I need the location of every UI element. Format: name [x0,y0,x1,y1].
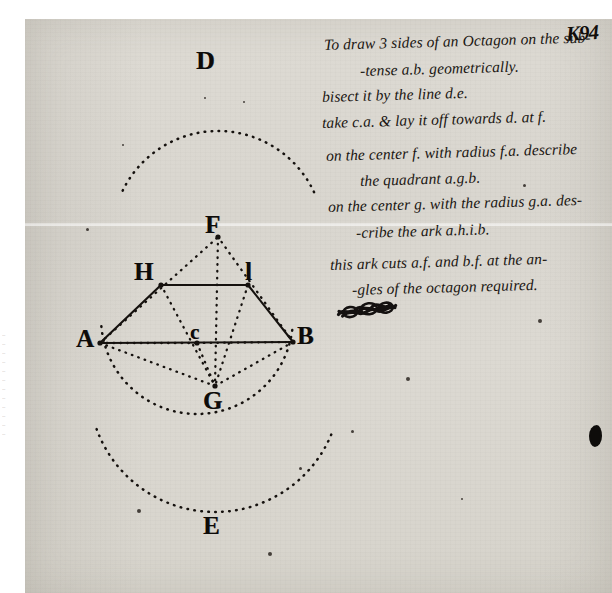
bleed-line: ... [2,429,16,438]
bleed-line: ... [2,411,16,420]
construction-c-g [197,343,215,386]
diagram-label-d: D [196,46,215,76]
ink-speck [137,509,141,513]
bleed-line: ... [2,375,16,384]
ark-a-h-i-b [97,429,334,512]
vertex-dot-a [97,340,102,345]
ink-speck [538,319,542,323]
verso-bleed-through: .................................... [2,330,16,585]
bleed-line: ... [2,357,16,366]
bleed-line: ... [2,402,16,411]
radius-g-h [161,285,215,386]
ink-speck [523,184,526,187]
radius-g-i [215,285,248,386]
vertex-dot-b [290,339,295,344]
ink-speck [122,144,124,146]
diagram-label-i: l [245,258,252,286]
diagram-label-c: c [190,320,199,345]
diagram-label-f: F [205,211,220,239]
diagram-label-b: B [297,322,314,350]
ink-speck [351,430,354,433]
octagon-side-a-h [100,285,161,343]
bleed-line: ... [2,330,16,339]
diagram-label-g: G [203,387,222,415]
vertex-dot-h [158,282,163,287]
ink-speck [268,552,272,556]
diagram-label-h: H [134,258,153,286]
ink-speck [243,101,245,103]
axis-d-e-segment [215,237,218,386]
diagram-label-e: E [203,512,220,540]
construction-a-g [100,343,215,386]
bleed-line: ... [2,420,16,429]
octagon-construction-diagram [0,0,612,593]
diagram-label-a: A [76,325,94,353]
bleed-line: ... [2,339,16,348]
bleed-line: ... [2,348,16,357]
octagon-side-i-b [248,285,293,342]
bleed-line: ... [2,384,16,393]
bleed-line: ... [2,393,16,402]
ink-speck [406,377,410,381]
dotted-construction-lines-layer [100,237,293,386]
ink-speck [86,228,89,231]
ink-speck [204,97,206,99]
bleed-line: ... [2,366,16,375]
quadrant-a-g-b [122,131,314,192]
manuscript-page: K94 To draw 3 sides of an Octagon on the… [0,0,612,593]
ink-speck [299,467,302,470]
ink-speck [461,498,463,500]
